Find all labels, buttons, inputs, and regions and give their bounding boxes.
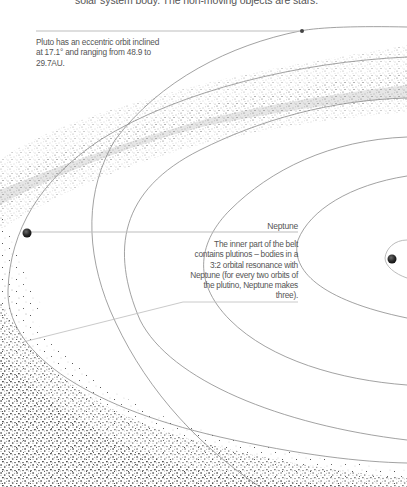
upper-belt-band — [0, 45, 407, 230]
pluto-dot-icon — [300, 29, 304, 33]
inner-planet-sphere-icon — [388, 255, 397, 264]
plutinos-annotation: The inner part of the belt contains plut… — [184, 239, 298, 301]
kuiper-belt-diagram: solar system body. The non-moving object… — [0, 0, 407, 487]
neptune-label: Neptune — [190, 221, 298, 231]
intro-caption: solar system body. The non-moving object… — [75, 0, 375, 6]
neptune-sphere-icon — [23, 229, 32, 238]
pluto-annotation: Pluto has an eccentric orbit inclined at… — [36, 37, 166, 68]
belt-leader-line — [23, 302, 183, 342]
